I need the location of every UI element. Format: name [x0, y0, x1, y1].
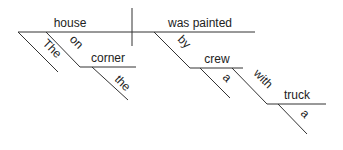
agent-article-word: a [220, 70, 235, 85]
preposition-object-word: corner [91, 51, 125, 65]
subject-preposition-word: on [67, 32, 86, 51]
subject-word: house [54, 16, 87, 30]
instrument-word: truck [284, 88, 311, 102]
verb-preposition-word: by [175, 32, 194, 51]
sentence-diagram: house was painted The on corner the by c… [0, 0, 343, 150]
verb-word: was painted [167, 16, 232, 30]
agent-preposition-word: with [250, 66, 276, 92]
agent-word: crew [204, 52, 230, 66]
object-article-word: the [112, 72, 134, 94]
instrument-article-word: a [298, 106, 313, 121]
